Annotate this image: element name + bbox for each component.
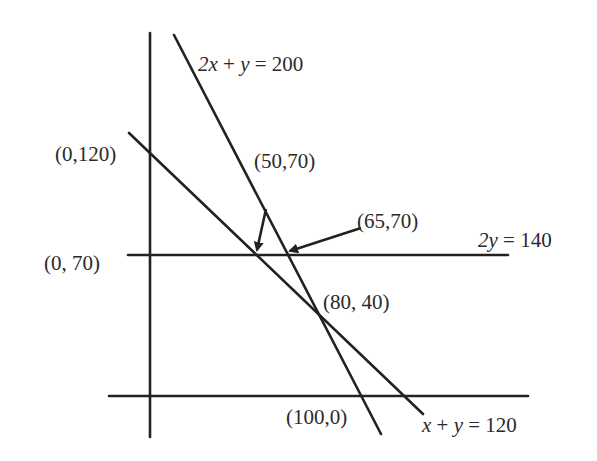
eq-rest: = 140 — [498, 228, 552, 252]
constraint-diagram: 2x + y = 200 x + y = 120 2y = 140 (0,120… — [0, 0, 597, 461]
line-x-y-120 — [129, 133, 423, 414]
point-label-80-40: (80, 40) — [323, 290, 390, 314]
point-label-65-70: (65,70) — [357, 209, 418, 233]
eq-term: 2y — [478, 228, 499, 252]
arrow-to-65-70 — [290, 228, 361, 251]
eq-term: 2x — [198, 52, 219, 76]
line-2x-y-200 — [174, 35, 381, 434]
eq-op: + — [431, 413, 453, 437]
point-label-100-0: (100,0) — [286, 405, 347, 429]
point-label-50-70: (50,70) — [254, 149, 315, 173]
label-x-y-120: x + y = 120 — [421, 413, 517, 437]
point-label-0-120: (0,120) — [55, 142, 116, 166]
label-2x-y-200: 2x + y = 200 — [198, 52, 303, 76]
arrow-to-50-70 — [257, 209, 266, 250]
eq-term: y — [452, 413, 464, 437]
point-label-0-70: (0, 70) — [44, 251, 100, 275]
eq-rest: = 200 — [250, 52, 304, 76]
label-2y-140: 2y = 140 — [478, 228, 552, 252]
eq-op: + — [218, 52, 240, 76]
eq-rest: = 120 — [463, 413, 517, 437]
eq-term: y — [238, 52, 250, 76]
